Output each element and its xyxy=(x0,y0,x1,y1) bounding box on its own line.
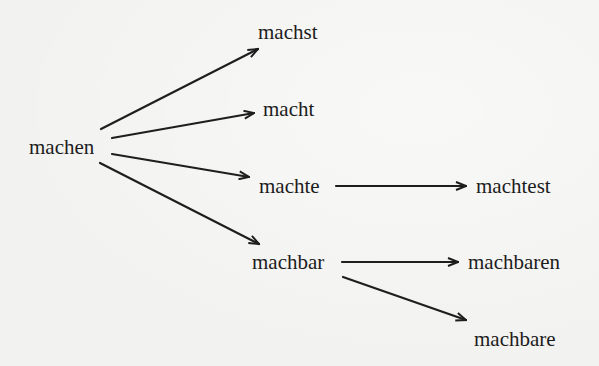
node-macht: macht xyxy=(263,99,314,120)
node-machte: machte xyxy=(259,176,320,197)
node-machtest: machtest xyxy=(476,176,551,197)
node-machst: machst xyxy=(258,22,317,43)
node-machbar: machbar xyxy=(252,252,324,273)
arrow-machbar-machbare xyxy=(343,277,466,320)
node-machbaren: machbaren xyxy=(468,252,560,273)
node-machbare: machbare xyxy=(474,329,556,350)
arrow-machen-machte xyxy=(112,154,249,177)
node-machen: machen xyxy=(29,137,94,158)
arrow-machen-macht xyxy=(112,113,254,138)
